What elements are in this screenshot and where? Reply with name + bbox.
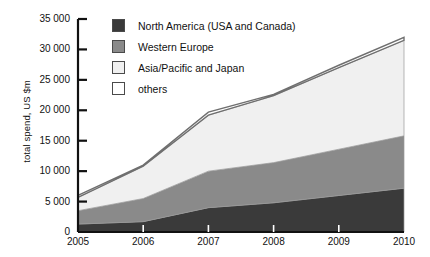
legend-item-label: others (138, 83, 167, 95)
legend-swatch-icon (112, 40, 125, 53)
legend-item: others (112, 78, 362, 99)
y-tick-label: 20 000 (39, 105, 70, 115)
x-tick-label: 2005 (67, 236, 89, 247)
y-tick-label: 30 000 (39, 44, 70, 54)
legend-item: North America (USA and Canada) (112, 15, 362, 36)
y-axis-tick-labels: 05 00010 00015 00020 00025 00030 00035 0… (0, 0, 78, 257)
y-axis-ticks (78, 19, 87, 202)
legend-swatch-icon (112, 19, 125, 32)
x-tick-label: 2008 (262, 236, 284, 247)
legend-swatch-icon (112, 82, 125, 95)
x-tick-label: 2006 (132, 236, 154, 247)
legend-item-label: Western Europe (138, 41, 214, 53)
y-tick-label: 35 000 (39, 14, 70, 24)
legend-item: Western Europe (112, 36, 362, 57)
x-tick-label: 2009 (328, 236, 350, 247)
legend-item: Asia/Pacific and Japan (112, 57, 362, 78)
x-tick-label: 2010 (393, 236, 415, 247)
y-tick-label: 15 000 (39, 136, 70, 146)
x-axis-tick-labels: 200520062007200820092010 (0, 236, 430, 254)
legend-item-label: North America (USA and Canada) (138, 20, 296, 32)
legend-swatch-icon (112, 61, 125, 74)
legend-item-label: Asia/Pacific and Japan (138, 62, 244, 74)
chart-legend: North America (USA and Canada)Western Eu… (112, 15, 362, 99)
y-tick-label: 5 000 (45, 197, 70, 207)
y-tick-label: 10 000 (39, 166, 70, 176)
stacked-area-chart: total spend, US $m 05 00010 00015 00020 … (0, 0, 430, 257)
x-tick-label: 2007 (197, 236, 219, 247)
y-tick-label: 25 000 (39, 75, 70, 85)
